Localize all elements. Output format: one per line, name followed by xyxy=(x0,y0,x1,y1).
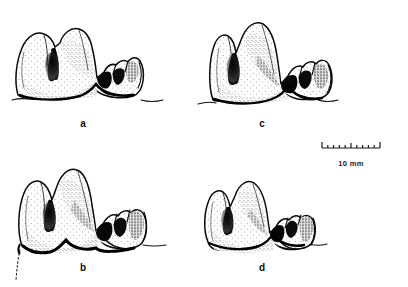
panel-label-a: a xyxy=(80,118,86,129)
scale-bar-label: 10 mm xyxy=(338,159,363,168)
figure-plate: a c xyxy=(0,0,408,287)
panel-label-d: d xyxy=(259,262,265,273)
tooth-c-valley-soft xyxy=(227,55,240,83)
panel-label-c: c xyxy=(259,118,265,129)
tooth-d-valley-soft xyxy=(221,209,233,234)
panel-label-b: b xyxy=(80,262,86,273)
